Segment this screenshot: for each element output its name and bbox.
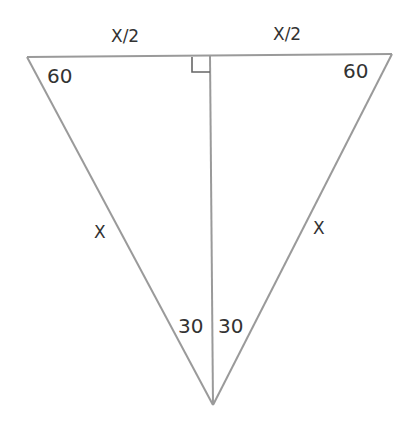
triangle-diagram: X/2 X/2 60 60 X X 30 30 bbox=[0, 0, 415, 432]
label-angle-top-right: 60 bbox=[343, 59, 368, 83]
label-right-side: X bbox=[313, 218, 325, 238]
label-angle-bottom-left: 30 bbox=[178, 314, 203, 338]
left-edge bbox=[27, 57, 213, 405]
right-angle-marker bbox=[192, 57, 210, 72]
label-angle-top-left: 60 bbox=[47, 64, 72, 88]
altitude-line bbox=[210, 56, 213, 405]
label-top-left-half: X/2 bbox=[111, 26, 139, 46]
right-edge bbox=[213, 54, 392, 405]
label-top-right-half: X/2 bbox=[273, 24, 301, 44]
label-angle-bottom-right: 30 bbox=[218, 314, 243, 338]
diagram-canvas: X/2 X/2 60 60 X X 30 30 bbox=[0, 0, 415, 432]
label-left-side: X bbox=[94, 222, 106, 242]
